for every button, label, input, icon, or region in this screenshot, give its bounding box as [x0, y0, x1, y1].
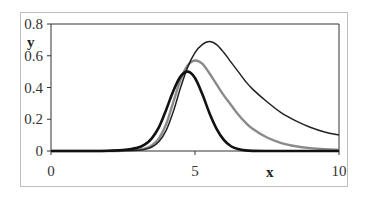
y-tick-label: 0	[36, 143, 44, 159]
tick-marks	[47, 24, 339, 155]
y-axis-title: y	[27, 34, 35, 50]
tick-labels: 00.20.40.60.80510	[24, 16, 346, 179]
data-series	[51, 41, 339, 151]
y-tick-label: 0.2	[24, 111, 43, 127]
axes	[51, 24, 339, 151]
y-tick-label: 0.4	[24, 80, 43, 96]
series-line-thin-black	[51, 41, 339, 151]
y-tick-label: 0.8	[24, 16, 43, 32]
x-tick-label: 0	[47, 163, 55, 179]
x-tick-label: 5	[191, 163, 199, 179]
x-tick-label: 10	[332, 163, 347, 179]
line-chart: 00.20.40.60.80510 x y	[0, 0, 366, 197]
x-axis-title: x	[266, 164, 274, 180]
series-line-gray	[51, 60, 339, 151]
y-tick-label: 0.6	[24, 48, 43, 64]
series-line-thick-black	[51, 72, 339, 151]
